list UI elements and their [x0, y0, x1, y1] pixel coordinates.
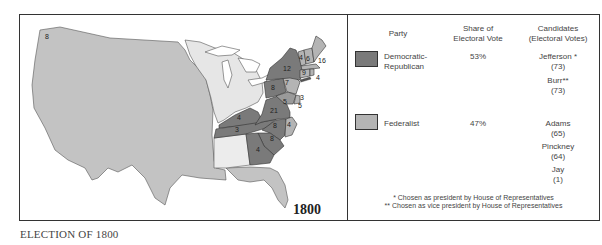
vote-label: 8 [271, 84, 275, 91]
header-candidates: Candidates (Electoral Votes) [518, 24, 598, 44]
legend-panel: Party Share of Electoral Vote Candidates… [348, 15, 599, 220]
vote-label: 5 [298, 102, 302, 109]
candidate-votes: (64) [523, 152, 593, 162]
vote-label: 7 [285, 79, 289, 86]
candidate-votes: (1) [523, 175, 593, 185]
vote-label: 4 [316, 74, 320, 81]
vote-label: 3 [300, 94, 304, 101]
mississippi-territory [214, 134, 250, 168]
vote-label: 8 [45, 33, 49, 40]
share-democratic-republican: 53% [453, 52, 503, 62]
map-year-label: 1800 [293, 202, 321, 218]
party-name-line1: Democratic- [384, 52, 427, 62]
candidate-name: Burr** [523, 76, 593, 86]
state-new-york [266, 48, 303, 80]
swatch-democratic-republican [355, 51, 378, 67]
election-map: 4 6 16 9 4 12 7 8 3 5 5 21 4 3 8 4 8 4 8 [20, 15, 346, 220]
vote-label: 4 [237, 114, 241, 121]
vote-label: 6 [306, 55, 310, 62]
vote-label: 4 [256, 146, 260, 153]
header-candidates-line2: (Electoral Votes) [518, 34, 598, 44]
vote-label: 16 [318, 57, 326, 64]
candidate-name: Jefferson * [523, 52, 593, 62]
figure-caption: ELECTION OF 1800 [20, 228, 119, 240]
header-share-line2: Electoral Vote [443, 34, 513, 44]
footnote-vice-president: ** Chosen as vice president by House of … [348, 202, 599, 210]
party-name-democratic-republican: Democratic- Republican [384, 52, 427, 72]
candidate-burr: Burr** (73) [523, 76, 593, 96]
candidate-adams: Adams (65) [523, 119, 593, 139]
vote-label: 5 [283, 98, 287, 105]
candidate-votes: (73) [523, 62, 593, 72]
share-federalist: 47% [453, 119, 503, 129]
footnote-president: * Chosen as president by House of Repres… [348, 194, 599, 202]
candidate-votes: (65) [523, 129, 593, 139]
swatch-federalist [355, 114, 378, 130]
candidate-pinckney: Pinckney (64) [523, 142, 593, 162]
header-share: Share of Electoral Vote [443, 24, 513, 44]
candidate-jay: Jay (1) [523, 165, 593, 185]
vote-label: 21 [270, 107, 278, 114]
header-party: Party [378, 29, 418, 39]
state-rhode-island [310, 69, 314, 76]
vote-label: 12 [283, 65, 291, 72]
vote-label: 8 [273, 122, 277, 129]
vote-label: 4 [299, 54, 303, 61]
header-share-line1: Share of [443, 24, 513, 34]
vote-label: 8 [270, 135, 274, 142]
florida-territory [226, 167, 288, 208]
party-name-line2: Republican [384, 62, 427, 72]
vote-label: 9 [302, 69, 306, 76]
vote-label: 4 [287, 121, 291, 128]
candidate-jefferson: Jefferson * (73) [523, 52, 593, 72]
candidate-votes: (73) [523, 86, 593, 96]
candidate-name: Pinckney [523, 142, 593, 152]
vote-label: 3 [235, 126, 239, 133]
candidate-name: Jay [523, 165, 593, 175]
candidate-name: Adams [523, 119, 593, 129]
header-candidates-line1: Candidates [518, 24, 598, 34]
party-name-federalist: Federalist [384, 119, 419, 129]
